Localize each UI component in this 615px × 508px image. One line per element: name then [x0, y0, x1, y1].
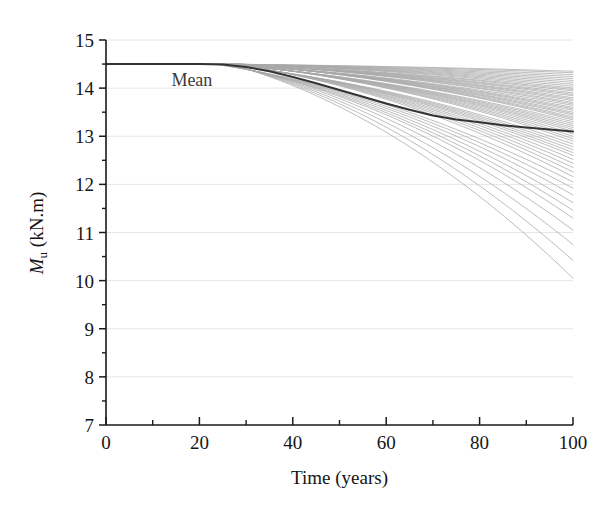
x-tick-label: 40: [283, 433, 302, 452]
x-tick-label: 20: [190, 433, 209, 452]
chart-figure: 789101112131415 020406080100 Time (years…: [0, 0, 615, 508]
x-tick-label: 100: [559, 433, 588, 452]
y-tick-label: 14: [75, 79, 94, 98]
y-tick-label: 10: [75, 271, 94, 290]
y-axis-title-unit: (kN.m): [26, 191, 47, 251]
mean-annotation-label: Mean: [171, 70, 212, 91]
x-tick-label: 0: [101, 433, 111, 452]
y-tick-label: 7: [85, 416, 95, 435]
y-tick-label: 12: [75, 175, 94, 194]
y-tick-label: 15: [75, 31, 94, 50]
y-tick-label: 11: [76, 223, 94, 242]
x-tick-label: 60: [377, 433, 396, 452]
y-tick-label: 9: [85, 319, 95, 338]
realization-lines: [106, 64, 573, 278]
y-axis-title: Mu (kN.m): [26, 191, 51, 273]
y-tick-label: 13: [75, 127, 94, 146]
x-tick-label: 80: [470, 433, 489, 452]
x-axis-title: Time (years): [291, 467, 388, 489]
y-axis-title-symbol: M: [26, 258, 47, 274]
y-axis-title-subscript: u: [35, 251, 50, 258]
y-tick-label: 8: [85, 367, 95, 386]
